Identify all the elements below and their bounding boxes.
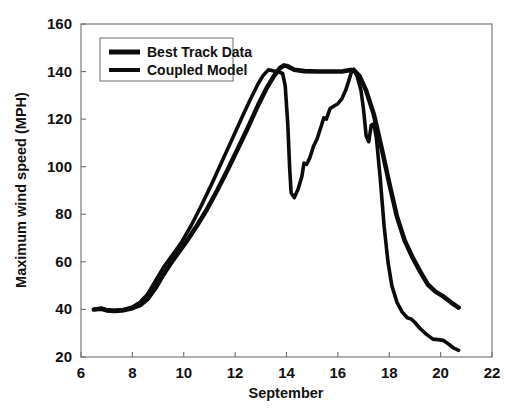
x-tick-label-10: 10 [175,364,192,381]
x-tick-label-18: 18 [381,364,398,381]
y-tick-label-20: 20 [55,348,72,365]
y-tick-label-60: 60 [55,253,72,270]
y-axis-title: Maximum wind speed (MPH) [13,92,29,288]
legend-label-best-track-data: Best Track Data [147,44,252,60]
x-tick-label-16: 16 [330,364,347,381]
chart-legend: Best Track Data Coupled Model [100,38,252,81]
x-tick-label-8: 8 [128,364,136,381]
x-tick-label-22: 22 [484,364,501,381]
y-tick-label-160: 160 [47,15,72,32]
x-tick-label-12: 12 [227,364,244,381]
y-tick-label-140: 140 [47,63,72,80]
y-tick-label-100: 100 [47,158,72,175]
x-axis-title: September [249,385,324,401]
x-tick-label-14: 14 [278,364,295,381]
legend-label-coupled-model: Coupled Model [147,62,247,78]
y-tick-label-80: 80 [55,205,72,222]
chart-canvas: 6810121416182022 20406080100120140160 Se… [0,0,524,420]
wind-speed-chart-figure: 6810121416182022 20406080100120140160 Se… [0,0,524,420]
y-tick-label-120: 120 [47,110,72,127]
x-tick-label-6: 6 [77,364,85,381]
x-tick-label-20: 20 [432,364,449,381]
y-tick-label-40: 40 [55,300,72,317]
